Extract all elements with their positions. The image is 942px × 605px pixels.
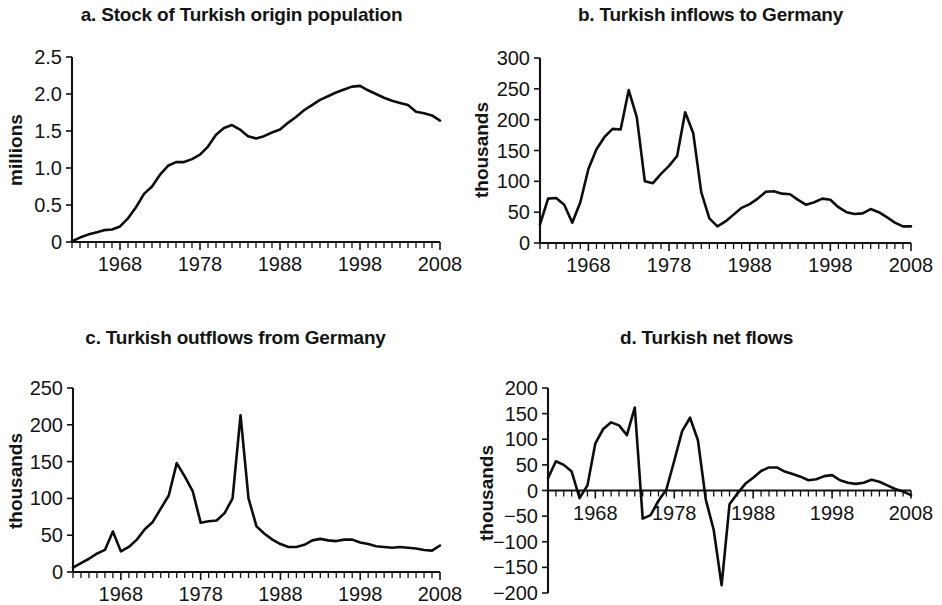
y-tick-label: 300: [497, 47, 530, 69]
y-tick-label: 50: [508, 201, 530, 223]
data-series-line: [73, 415, 440, 567]
y-tick-label: 200: [30, 414, 63, 436]
y-axis-title: thousands: [476, 445, 497, 541]
y-tick-label: −100: [493, 531, 538, 553]
y-axis-title: thousands: [471, 102, 492, 198]
y-tick-label: 100: [505, 428, 538, 450]
y-tick-label: 0.5: [34, 194, 62, 216]
x-tick-label: 1968: [99, 583, 144, 605]
y-tick-label: 100: [30, 487, 63, 509]
data-series-line: [540, 90, 911, 226]
x-tick-label: 1988: [258, 253, 303, 275]
x-tick-label: 1978: [652, 502, 697, 524]
y-tick-label: 2.0: [34, 83, 62, 105]
x-tick-label: 2008: [889, 502, 934, 524]
panel-d-plot: −200−150−100−500501001502001968197819881…: [471, 303, 942, 605]
x-tick-label: 1998: [338, 583, 383, 605]
y-tick-label: 50: [41, 524, 63, 546]
y-tick-label: 200: [505, 377, 538, 399]
y-tick-label: −150: [493, 556, 538, 578]
y-tick-label: 150: [505, 403, 538, 425]
x-tick-label: 1998: [808, 254, 853, 276]
x-tick-label: 2008: [889, 254, 934, 276]
y-tick-label: 50: [516, 454, 538, 476]
y-tick-label: 1.5: [34, 120, 62, 142]
y-tick-label: 0: [519, 232, 530, 254]
axes-group: 00.51.01.52.02.519681978198819982008mill…: [5, 46, 462, 275]
y-axis-title: millions: [5, 114, 26, 186]
y-tick-label: 250: [30, 377, 63, 399]
x-tick-label: 1988: [727, 254, 772, 276]
panel-b: b. Turkish inflows to Germany 0501001502…: [471, 0, 942, 302]
x-tick-label: 1968: [573, 502, 618, 524]
x-tick-label: 1968: [98, 253, 143, 275]
axes-group: −200−150−100−500501001502001968197819881…: [476, 377, 933, 604]
y-tick-label: 150: [30, 451, 63, 473]
x-tick-label: 1968: [566, 254, 611, 276]
x-tick-label: 1988: [258, 583, 303, 605]
y-tick-label: 0: [52, 561, 63, 583]
y-tick-label: 1.0: [34, 157, 62, 179]
x-tick-label: 1998: [810, 502, 855, 524]
x-tick-label: 1988: [731, 502, 776, 524]
x-tick-label: 1978: [647, 254, 692, 276]
x-tick-label: 2008: [418, 253, 463, 275]
y-axis-title: thousands: [5, 433, 26, 529]
x-tick-label: 2008: [418, 583, 463, 605]
x-tick-label: 1978: [178, 583, 223, 605]
panel-b-plot: 05010015020025030019681978198819982008th…: [471, 0, 942, 302]
axes-group: 05010015020025019681978198819982008thous…: [5, 377, 462, 605]
x-tick-label: 1998: [338, 253, 383, 275]
panel-a: a. Stock of Turkish origin population 00…: [0, 0, 471, 302]
panel-c-plot: 05010015020025019681978198819982008thous…: [0, 303, 471, 605]
figure-four-panel-turkish-migration: a. Stock of Turkish origin population 00…: [0, 0, 942, 605]
panel-a-plot: 00.51.01.52.02.519681978198819982008mill…: [0, 0, 471, 302]
y-tick-label: 150: [497, 140, 530, 162]
axes-group: 05010015020025030019681978198819982008th…: [471, 47, 933, 276]
data-series-line: [72, 86, 440, 241]
y-tick-label: −200: [493, 582, 538, 604]
y-tick-label: −50: [504, 505, 538, 527]
y-tick-label: 0: [527, 480, 538, 502]
panel-d: d. Turkish net flows −200−150−100−500501…: [471, 303, 942, 605]
panel-c: c. Turkish outflows from Germany 0501001…: [0, 303, 471, 605]
y-tick-label: 2.5: [34, 46, 62, 68]
x-tick-label: 1978: [178, 253, 223, 275]
y-tick-label: 100: [497, 170, 530, 192]
y-tick-label: 0: [51, 231, 62, 253]
y-tick-label: 200: [497, 109, 530, 131]
y-tick-label: 250: [497, 78, 530, 100]
